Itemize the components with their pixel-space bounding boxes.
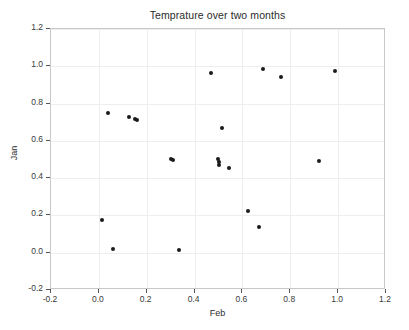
scatter-point <box>177 248 181 252</box>
gridline-vertical <box>195 29 196 288</box>
chart-title: Temprature over two months <box>50 9 385 21</box>
scatter-point <box>317 159 321 163</box>
gridline-horizontal <box>51 215 384 216</box>
x-tick-label: -0.2 <box>30 294 70 304</box>
x-tick-label: 0.6 <box>221 294 261 304</box>
y-tick-mark <box>46 103 50 104</box>
gridline-horizontal <box>51 66 384 67</box>
y-tick-label: 0.0 <box>9 246 43 256</box>
x-axis-label: Feb <box>50 308 385 318</box>
x-tick-mark <box>289 289 290 293</box>
y-tick-label: 1.2 <box>9 22 43 32</box>
scatter-point <box>246 209 250 213</box>
gridline-horizontal <box>51 104 384 105</box>
x-tick-label: 1.2 <box>365 294 405 304</box>
y-tick-mark <box>46 177 50 178</box>
gridline-horizontal <box>51 29 384 30</box>
gridline-vertical <box>99 29 100 288</box>
scatter-point <box>209 71 213 75</box>
x-tick-mark <box>241 289 242 293</box>
y-tick-label: 1.0 <box>9 59 43 69</box>
scatter-point <box>135 118 139 122</box>
scatter-point <box>220 126 224 130</box>
y-tick-mark <box>46 252 50 253</box>
gridline-vertical <box>338 29 339 288</box>
y-tick-label: 0.2 <box>9 208 43 218</box>
scatter-point <box>111 247 115 251</box>
y-tick-mark <box>46 289 50 290</box>
scatter-chart-figure: Temprature over two months -0.20.00.20.4… <box>0 0 409 330</box>
x-tick-mark <box>385 289 386 293</box>
x-tick-label: 1.0 <box>317 294 357 304</box>
x-tick-label: 0.8 <box>269 294 309 304</box>
scatter-point <box>100 218 104 222</box>
plot-area <box>50 28 385 289</box>
gridline-vertical <box>147 29 148 288</box>
y-tick-label: -0.2 <box>9 283 43 293</box>
scatter-point <box>279 75 283 79</box>
scatter-point <box>227 166 231 170</box>
scatter-point <box>127 115 131 119</box>
x-tick-mark <box>337 289 338 293</box>
gridline-horizontal <box>51 178 384 179</box>
gridline-horizontal <box>51 253 384 254</box>
y-tick-label: 0.8 <box>9 97 43 107</box>
y-axis-label: Jan <box>9 133 19 173</box>
y-tick-mark <box>46 28 50 29</box>
x-tick-mark <box>50 289 51 293</box>
scatter-point <box>257 225 261 229</box>
x-tick-label: 0.4 <box>174 294 214 304</box>
y-tick-mark <box>46 140 50 141</box>
gridline-vertical <box>290 29 291 288</box>
x-tick-mark <box>146 289 147 293</box>
y-tick-mark <box>46 65 50 66</box>
scatter-point <box>106 111 110 115</box>
scatter-point <box>171 158 175 162</box>
gridline-horizontal <box>51 141 384 142</box>
x-tick-label: 0.2 <box>126 294 166 304</box>
x-tick-mark <box>98 289 99 293</box>
scatter-point <box>217 163 221 167</box>
x-tick-label: 0.0 <box>78 294 118 304</box>
y-tick-mark <box>46 214 50 215</box>
gridline-vertical <box>242 29 243 288</box>
x-tick-mark <box>194 289 195 293</box>
scatter-point <box>261 67 265 71</box>
scatter-point <box>333 69 337 73</box>
